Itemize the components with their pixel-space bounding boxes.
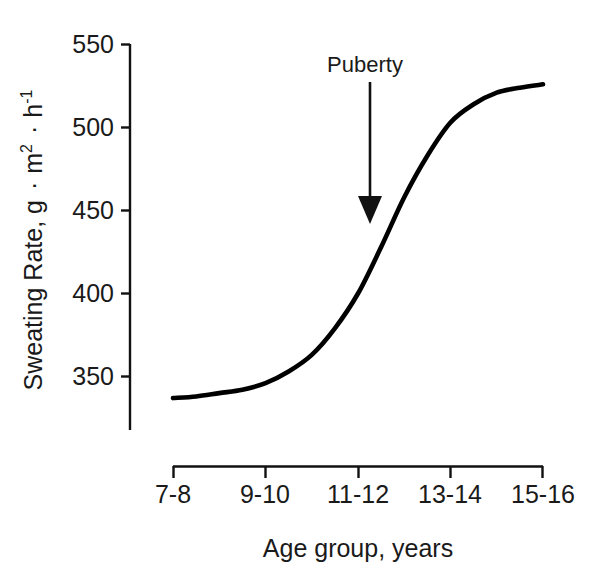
- puberty-arrow-head-icon: [358, 196, 382, 224]
- x-tick-label-15-16: 15-16: [511, 480, 575, 508]
- x-tick-label-7-8: 7-8: [155, 480, 191, 508]
- puberty-annotation: Puberty: [327, 52, 403, 224]
- y-axis-title-unit1: m: [19, 153, 47, 174]
- sweating-rate-chart: 550 500 450 400 350 7-8 9-10 11-12 13-14…: [0, 0, 596, 583]
- y-tick-label-550: 550: [72, 30, 114, 58]
- y-axis-title-unit2-sup: -1: [18, 89, 35, 103]
- y-tick-label-450: 450: [72, 196, 114, 224]
- y-axis-title-sep1: ·: [19, 182, 47, 190]
- puberty-label: Puberty: [327, 52, 403, 77]
- svg-text:Sweating Rate, g·m2·h-1: Sweating Rate, g·m2·h-1: [18, 89, 47, 390]
- x-tick-label-11-12: 11-12: [327, 480, 389, 508]
- sweating-rate-curve: [173, 84, 543, 398]
- y-axis-title-main: Sweating Rate, g: [19, 200, 47, 390]
- y-tick-label-500: 500: [72, 113, 114, 141]
- x-axis-title: Age group, years: [263, 534, 453, 562]
- y-axis-title-unit2: h: [19, 104, 47, 118]
- x-tick-label-13-14: 13-14: [418, 480, 482, 508]
- y-axis-title-unit1-sup: 2: [18, 144, 35, 153]
- y-axis-title: Sweating Rate, g·m2·h-1: [18, 89, 47, 390]
- y-axis-title-sep2: ·: [19, 126, 47, 134]
- y-tick-label-350: 350: [72, 362, 114, 390]
- y-axis: 550 500 450 400 350: [72, 30, 130, 430]
- x-axis: 7-8 9-10 11-12 13-14 15-16: [155, 466, 575, 508]
- chart-figure: 550 500 450 400 350 7-8 9-10 11-12 13-14…: [0, 0, 596, 583]
- x-tick-label-9-10: 9-10: [240, 480, 290, 508]
- y-tick-label-400: 400: [72, 279, 114, 307]
